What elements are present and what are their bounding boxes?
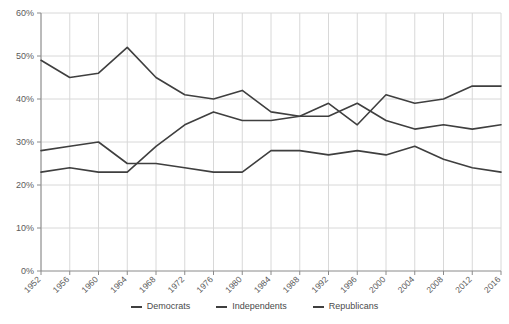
x-axis-tick-label: 2012 xyxy=(453,274,474,295)
x-axis-tick-label: 1968 xyxy=(137,274,158,295)
y-axis-tick-label: 60% xyxy=(16,8,34,18)
x-axis-tick-label: 2016 xyxy=(482,274,503,295)
legend-item-republicans[interactable]: Republicans xyxy=(313,302,379,311)
legend-item-democrats[interactable]: Democrats xyxy=(131,302,191,311)
legend-swatch-democrats xyxy=(131,306,142,308)
x-axis-tick-label: 2008 xyxy=(424,274,445,295)
y-axis-tick-label: 10% xyxy=(16,223,34,233)
x-axis-tick-label: 1960 xyxy=(79,274,100,295)
legend-label-republicans: Republicans xyxy=(329,302,379,311)
x-axis-tick-label: 2004 xyxy=(396,274,417,295)
legend-item-independents[interactable]: Independents xyxy=(216,302,287,311)
y-axis-tick-label: 30% xyxy=(16,137,34,147)
y-axis-tick-label: 0% xyxy=(21,266,34,276)
legend-swatch-republicans xyxy=(313,306,324,308)
legend-label-democrats: Democrats xyxy=(147,302,191,311)
chart-plot-area: 60%50%40%30%20%10%0%19521956196019641968… xyxy=(0,0,509,324)
x-axis-tick-label: 1964 xyxy=(108,274,129,295)
legend-label-independents: Independents xyxy=(232,302,287,311)
line-chart: 60%50%40%30%20%10%0%19521956196019641968… xyxy=(0,0,509,324)
x-axis-tick-label: 1996 xyxy=(338,274,359,295)
x-axis-tick-label: 1956 xyxy=(51,274,72,295)
y-axis-tick-label: 50% xyxy=(16,51,34,61)
legend-swatch-independents xyxy=(216,306,227,308)
y-axis-tick-label: 20% xyxy=(16,180,34,190)
y-axis-tick-label: 40% xyxy=(16,94,34,104)
x-axis-tick-label: 1976 xyxy=(194,274,215,295)
chart-legend: Democrats Independents Republicans xyxy=(0,302,509,311)
x-axis-tick-label: 2000 xyxy=(367,274,388,295)
x-axis-tick-label: 1952 xyxy=(22,274,43,295)
x-axis-tick-label: 1980 xyxy=(223,274,244,295)
x-axis-tick-label: 1988 xyxy=(281,274,302,295)
x-axis-tick-label: 1984 xyxy=(252,274,273,295)
x-axis-tick-label: 1992 xyxy=(309,274,330,295)
x-axis-tick-label: 1972 xyxy=(166,274,187,295)
